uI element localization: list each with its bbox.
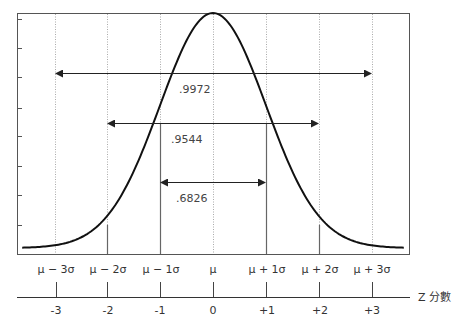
z-labels: -3 -2 -1 0 +1 +2 +3 <box>51 304 381 317</box>
svg-text:μ − 3σ: μ − 3σ <box>37 263 74 276</box>
svg-text:+3: +3 <box>364 304 380 317</box>
normal-distribution-chart: .9972 .9544 .6826 μ − 3σ μ − 2σ μ − 1σ μ… <box>0 0 462 327</box>
area-label-6826: .6826 <box>176 192 208 205</box>
normal-curve <box>22 13 404 248</box>
area-label-9972: .9972 <box>179 83 211 96</box>
svg-text:μ + 3σ: μ + 3σ <box>353 263 390 276</box>
svg-text:0: 0 <box>210 304 217 317</box>
gridlines <box>56 14 373 254</box>
sigma-labels: μ − 3σ μ − 2σ μ − 1σ μ μ + 1σ μ + 2σ μ +… <box>37 263 390 276</box>
svg-text:-3: -3 <box>51 304 62 317</box>
svg-text:-1: -1 <box>155 304 166 317</box>
svg-text:μ: μ <box>210 263 217 276</box>
svg-text:+2: +2 <box>312 304 328 317</box>
svg-text:μ − 2σ: μ − 2σ <box>89 263 126 276</box>
svg-text:+1: +1 <box>259 304 275 317</box>
svg-text:-2: -2 <box>103 304 114 317</box>
z-axis-title: Z 分數 <box>418 291 451 304</box>
svg-text:μ + 2σ: μ + 2σ <box>301 263 338 276</box>
area-label-9544: .9544 <box>171 133 203 146</box>
svg-text:μ + 1σ: μ + 1σ <box>248 263 285 276</box>
z-axis-ticks <box>57 282 373 297</box>
svg-text:μ − 1σ: μ − 1σ <box>142 263 179 276</box>
